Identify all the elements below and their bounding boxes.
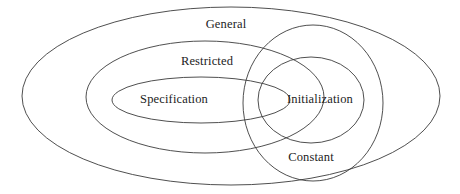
set-label-specification: Specification	[140, 92, 208, 107]
set-ellipse-general	[22, 7, 440, 185]
diagram-canvas: General Restricted Specification Constan…	[0, 0, 460, 194]
set-label-constant: Constant	[288, 150, 334, 165]
set-label-general: General	[206, 17, 247, 32]
set-label-initialization: Initialization	[287, 92, 353, 107]
set-label-restricted: Restricted	[181, 54, 233, 69]
